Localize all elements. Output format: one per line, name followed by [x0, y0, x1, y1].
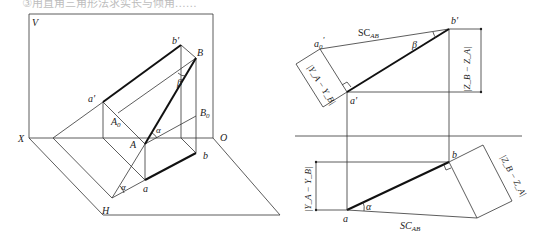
label-B: B — [197, 47, 203, 58]
label-A: A — [129, 139, 137, 150]
b-prime-to-B — [181, 45, 196, 58]
bx-to-b — [181, 138, 196, 153]
label-X: X — [17, 133, 25, 144]
alpha-arc-right — [363, 202, 364, 211]
projection-diagram: V X O H b' B a' A0 B0 A a b β α α — [0, 0, 534, 245]
dim-z-tick-top — [480, 28, 482, 30]
right-angle-marker-bottom — [444, 165, 451, 170]
label-beta: β — [176, 77, 182, 88]
label-sc-ab-top: SCAB — [358, 27, 380, 40]
b-to-b0 — [449, 162, 477, 218]
h-trace-line — [53, 138, 112, 198]
a-prime-b-prime-projection — [347, 29, 449, 92]
label-alpha-right: α — [366, 201, 372, 212]
ab-projection — [347, 162, 449, 210]
label-beta-right: β — [411, 39, 417, 50]
dim-z-ext-bottom — [477, 201, 512, 218]
label-a-prime-right: a' — [350, 95, 358, 106]
label-a: a — [143, 183, 148, 194]
ax-to-a — [103, 138, 145, 180]
label-V: V — [32, 17, 40, 28]
H-to-a — [112, 180, 145, 198]
segment-AB — [145, 58, 196, 144]
label-alpha-bottom: α — [121, 182, 126, 192]
label-a-right: a — [343, 213, 348, 224]
dim-y-tick-bottom — [315, 209, 317, 211]
A0-to-B — [118, 58, 196, 113]
label-b-prime-right: b' — [451, 15, 459, 26]
label-B0: B0 — [200, 107, 210, 120]
label-O: O — [220, 132, 227, 143]
dim-y-tick-top — [315, 161, 317, 163]
label-dim-z-top: |Z_B − Z_A| — [462, 46, 472, 92]
label-dim-z-bottom: |Z_B − Z_A| — [498, 153, 528, 198]
a-prime-extension — [53, 102, 103, 138]
right-bottom-h-triangle: a b α SCAB |Y_A − Y_B| |Z_B − Z_A| — [303, 145, 528, 233]
label-b: b — [203, 150, 208, 161]
label-a-prime: a' — [88, 93, 96, 104]
label-b-prime: b' — [172, 35, 180, 46]
label-H: H — [101, 205, 110, 216]
a-prime-b-prime — [103, 45, 181, 102]
dim-y-ext-top — [296, 49, 320, 64]
left-pictorial: V X O H b' B a' A0 B0 A a b β α α — [17, 14, 280, 216]
label-sc-ab-bottom: SCAB — [400, 220, 421, 233]
label-dim-y-bottom: |Y_A − Y_B| — [303, 167, 313, 212]
true-length-v — [320, 29, 449, 49]
dim-z-tick-bottom — [480, 91, 482, 93]
segment-ab — [145, 153, 196, 180]
h-plane — [29, 138, 280, 215]
label-b-right: b — [452, 149, 457, 160]
label-alpha-top: α — [156, 125, 161, 135]
